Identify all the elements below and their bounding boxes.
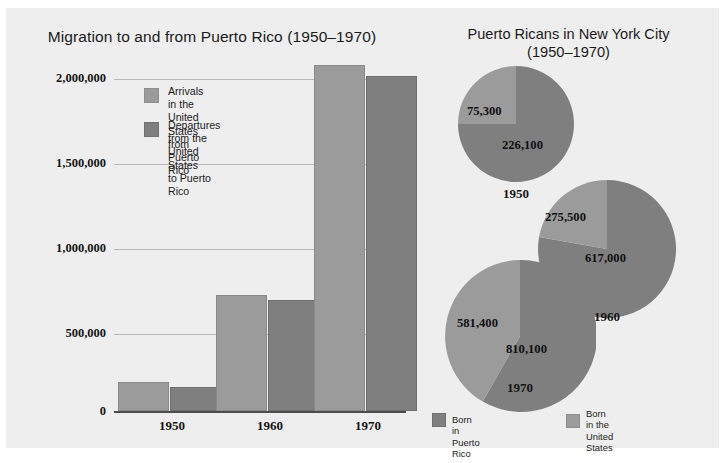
bar-1970-departures[interactable] — [366, 76, 417, 411]
pie-chart-title: Puerto Ricans in New York City (1950–197… — [418, 26, 719, 61]
bar-1970-arrivals[interactable] — [314, 65, 365, 411]
bar-chart-panel: Migration to and from Puerto Rico (1950–… — [6, 8, 418, 448]
pie-legend-swatch-united-states — [566, 414, 580, 428]
bar-1950-arrivals[interactable] — [118, 382, 169, 411]
x-axis-label-1950: 1950 — [142, 418, 202, 434]
y-axis-label-1000000: 1,000,000 — [6, 241, 106, 256]
pie-legend-swatch-puerto-rico — [432, 413, 446, 427]
pie-1970-year-label: 1970 — [490, 380, 550, 396]
legend-swatch-arrivals — [144, 88, 159, 103]
pie-1950 — [458, 66, 574, 182]
bar-1960-departures[interactable] — [268, 300, 319, 411]
x-axis-line — [114, 411, 406, 413]
pie-1970-value-united-states: 581,400 — [457, 316, 498, 331]
y-axis-label-1500000: 1,500,000 — [6, 156, 106, 171]
bar-1960-arrivals[interactable] — [216, 295, 267, 411]
pie-chart-panel: Puerto Ricans in New York City (1950–197… — [418, 8, 719, 448]
bar-plot-area — [114, 58, 406, 411]
legend-swatch-departures — [144, 122, 159, 137]
y-axis-label-0: 0 — [6, 404, 106, 419]
x-axis-label-1970: 1970 — [338, 418, 398, 434]
pie-legend-label-puerto-rico: Born in Puerto Rico — [452, 414, 480, 460]
y-axis-label-2000000: 2,000,000 — [6, 71, 106, 86]
figure-container: Migration to and from Puerto Rico (1950–… — [6, 8, 719, 448]
bar-chart-title: Migration to and from Puerto Rico (1950–… — [6, 28, 418, 46]
pie-1950-year-label: 1950 — [486, 186, 546, 202]
y-axis-label-500000: 500,000 — [6, 326, 106, 341]
pie-1950-value-united-states: 75,300 — [467, 104, 502, 119]
x-axis-label-1960: 1960 — [240, 418, 300, 434]
pie-legend-label-united-states: Born in the United States — [586, 408, 613, 454]
pie-1960-value-united-states: 275,500 — [545, 210, 586, 225]
pie-1970-value-puerto-rico: 810,100 — [506, 342, 547, 357]
pie-1950-value-puerto-rico: 226,100 — [502, 138, 543, 153]
bar-1950-departures[interactable] — [170, 387, 221, 411]
legend-label-departures: Departures from the United States to Pue… — [168, 119, 220, 198]
